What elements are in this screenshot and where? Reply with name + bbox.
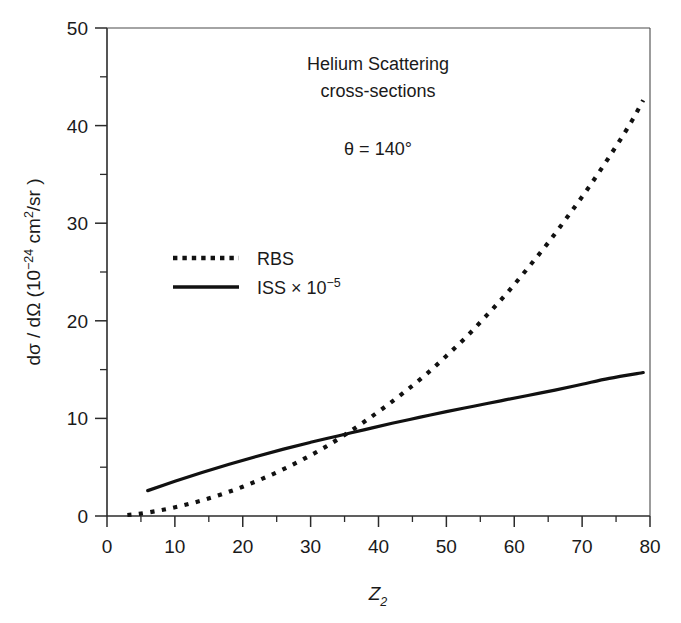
y-tick-label: 0 [77,506,88,527]
x-tick-label: 80 [639,536,660,557]
x-tick-label: 70 [572,536,593,557]
x-tick-label: 30 [300,536,321,557]
y-axis-tick-labels: 01020304050 [67,18,88,527]
x-tick-label: 50 [436,536,457,557]
series-line-rbs [127,100,643,515]
x-tick-label: 10 [164,536,185,557]
legend: RBS ISS × 10−5 [173,249,341,298]
theta-annotation: θ = 140° [344,139,412,159]
x-tick-label: 20 [232,536,253,557]
series-line-iss [148,373,643,491]
y-tick-label: 50 [67,18,88,39]
y-axis-title-group: dσ / dΩ (10−24 cm2/sr ) [22,178,44,365]
y-axis-title: dσ / dΩ (10−24 cm2/sr ) [22,178,44,365]
legend-label-rbs: RBS [257,249,294,269]
data-series-group [127,100,643,515]
x-tick-label: 40 [368,536,389,557]
x-tick-label: 60 [504,536,525,557]
y-tick-label: 10 [67,408,88,429]
x-axis-title: Z2 [368,583,388,609]
legend-label-iss: ISS × 10−5 [257,276,341,298]
plot-frame [107,28,650,516]
y-tick-label: 40 [67,116,88,137]
x-axis-tick-labels: 01020304050607080 [102,536,661,557]
y-tick-label: 20 [67,311,88,332]
chart-title-line1: Helium Scattering [307,54,449,74]
x-tick-label: 0 [102,536,113,557]
scatter-line-chart: 01020304050607080 01020304050 Helium Sca… [0,0,681,623]
chart-title-line2: cross-sections [320,81,435,101]
figure-container: 01020304050607080 01020304050 Helium Sca… [0,0,681,623]
x-axis-ticks [107,516,650,527]
y-tick-label: 30 [67,213,88,234]
y-axis-ticks [95,28,107,516]
